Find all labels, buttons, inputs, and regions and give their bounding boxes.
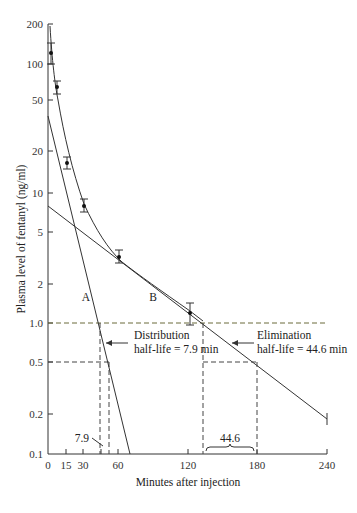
y-tick-label: 10 xyxy=(32,187,44,199)
arrowhead-icon xyxy=(232,340,238,346)
y-tick-label: 2 xyxy=(38,278,44,290)
line-b-label: B xyxy=(149,291,157,303)
svg-text:7.9: 7.9 xyxy=(75,432,90,444)
x-tick-label: 240 xyxy=(319,459,336,471)
y-tick-label: 0.5 xyxy=(29,356,43,368)
elimination-half-life: half-life = 44.6 min xyxy=(257,343,347,355)
y-tick-label: 1.0 xyxy=(29,317,43,329)
y-tick-label: 200 xyxy=(27,18,44,30)
elimination-label: Elimination xyxy=(257,329,312,341)
x-tick-label: 0 xyxy=(45,459,51,471)
line-b xyxy=(48,206,327,419)
y-tick-labels: 200 100 50 20 10 5 2 1.0 0.5 0.2 0.1 xyxy=(27,18,44,460)
y-tick-label: 20 xyxy=(32,145,44,157)
distribution-half-life: half-life = 7.9 min xyxy=(134,343,219,355)
data-point xyxy=(53,81,61,94)
x-tick-label: 120 xyxy=(180,459,197,471)
y-tick-label: 5 xyxy=(38,226,44,238)
x-tick-label: 30 xyxy=(78,459,90,471)
elimination-annotation: Elimination half-life = 44.6 min xyxy=(232,329,347,355)
distribution-label: Distribution xyxy=(134,329,190,341)
line-a xyxy=(48,116,130,454)
distribution-interval-label: 7.9 xyxy=(75,432,103,446)
data-point xyxy=(63,157,71,169)
line-a-label: A xyxy=(82,291,91,303)
elimination-interval-bracket: 44.6 xyxy=(206,432,254,451)
x-tick-label: 15 xyxy=(61,459,73,471)
y-tick-label: 0.2 xyxy=(29,408,43,420)
x-tick-label: 60 xyxy=(113,459,125,471)
y-tick-label: 100 xyxy=(27,58,44,70)
arrowhead-icon xyxy=(106,340,112,346)
pharmacokinetic-chart: 200 100 50 20 10 5 2 1.0 0.5 0.2 0.1 0 1… xyxy=(0,0,357,513)
y-tick-label: 0.1 xyxy=(29,448,43,460)
svg-text:44.6: 44.6 xyxy=(220,432,240,444)
x-axis-title: Minutes after injection xyxy=(136,476,241,489)
distribution-annotation: Distribution half-life = 7.9 min xyxy=(106,329,219,355)
fitted-curve xyxy=(50,26,203,321)
y-tick-label: 50 xyxy=(32,94,44,106)
x-tick-label: 180 xyxy=(249,459,266,471)
data-points xyxy=(47,43,194,325)
data-point xyxy=(186,303,194,325)
x-ticks xyxy=(66,449,327,454)
y-ticks xyxy=(48,24,53,414)
y-axis-title: Plasma level of fentanyl (ng/ml) xyxy=(15,164,28,313)
x-tick-labels: 0 15 30 60 120 180 240 xyxy=(45,459,336,471)
